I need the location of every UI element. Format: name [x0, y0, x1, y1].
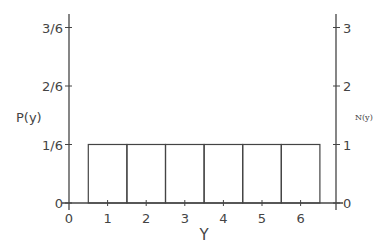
probability-histogram: 0123456 01/62/63/6 0123 Y P(y) N(y)	[0, 0, 386, 251]
bar-4	[204, 144, 243, 203]
right-y-tick-label: 3	[343, 21, 351, 36]
left-y-tick-label: 2/6	[42, 79, 63, 94]
x-tick-label: 3	[181, 211, 189, 226]
left-y-ticks: 01/62/63/6	[42, 21, 72, 212]
right-y-tick-label: 2	[343, 79, 351, 94]
left-y-tick-label: 1/6	[42, 138, 63, 153]
x-tick-label: 0	[65, 211, 73, 226]
x-tick-label: 6	[296, 211, 304, 226]
left-y-tick-label: 0	[55, 196, 63, 211]
right-y-tick-label: 1	[343, 138, 351, 153]
x-tick-label: 5	[258, 211, 266, 226]
x-tick-label: 4	[219, 211, 227, 226]
x-ticks: 0123456	[65, 200, 305, 226]
bar-1	[88, 144, 127, 203]
left-y-axis-label: P(y)	[16, 110, 42, 125]
bar-2	[127, 144, 166, 203]
bars	[88, 144, 320, 203]
x-axis-label: Y	[198, 226, 209, 244]
left-y-tick-label: 3/6	[42, 21, 63, 36]
x-tick-label: 2	[142, 211, 150, 226]
right-y-tick-label: 0	[343, 196, 351, 211]
bar-6	[281, 144, 320, 203]
bar-3	[166, 144, 205, 203]
x-tick-label: 1	[103, 211, 111, 226]
bar-5	[243, 144, 282, 203]
right-y-axis-label: N(y)	[355, 113, 373, 122]
